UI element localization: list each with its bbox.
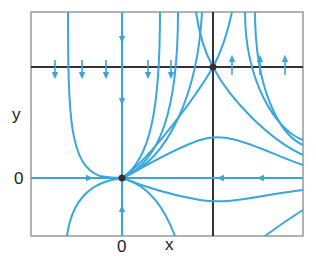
phase-portrait	[0, 0, 316, 264]
equilibrium-saddle	[210, 64, 217, 71]
traj-left-upper	[68, 12, 122, 178]
traj-left-lower	[67, 178, 122, 236]
trajectories	[31, 12, 303, 236]
traj-top-1	[122, 12, 160, 178]
equilibrium-origin	[119, 175, 126, 182]
